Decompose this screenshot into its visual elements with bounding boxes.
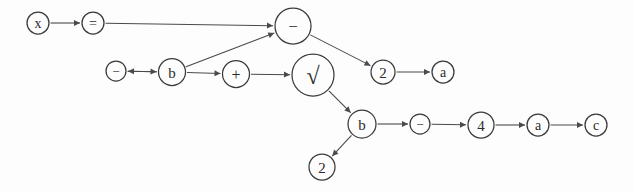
node-b-lower[interactable]: b [348, 110, 376, 138]
edge-two-upper-to-a-upper [397, 69, 431, 75]
edge-minus-lower-to-four [431, 122, 466, 128]
node-equals[interactable]: = [82, 12, 104, 34]
edge-equals-to-minus-main [105, 23, 273, 29]
edge-a-lower-to-c [551, 122, 584, 128]
node-a-upper-circle[interactable] [432, 61, 454, 83]
edge-four-to-a-lower [496, 122, 526, 128]
node-c-circle[interactable] [585, 114, 607, 136]
node-x-circle[interactable] [27, 12, 49, 34]
node-c[interactable]: c [585, 114, 607, 136]
node-four[interactable]: 4 [468, 112, 494, 138]
node-two-lower-circle[interactable] [309, 154, 335, 180]
graph-svg: x=−−b+√2ab−4ac2 [0, 0, 634, 192]
node-sqrt-circle[interactable] [292, 54, 334, 96]
diagram-canvas: x=−−b+√2ab−4ac2 [0, 0, 634, 192]
node-plus[interactable]: + [223, 61, 250, 88]
node-minus-lower-circle[interactable] [410, 114, 430, 134]
node-two-upper[interactable]: 2 [371, 60, 395, 84]
edge-plus-to-sqrt [251, 72, 290, 78]
node-minus-small-circle[interactable] [106, 61, 126, 81]
node-four-circle[interactable] [468, 112, 494, 138]
edge-b-lower-to-minus-lower [378, 121, 409, 127]
edge-sqrt-to-b-lower [329, 91, 351, 113]
node-a-lower-circle[interactable] [527, 114, 549, 136]
node-minus-main-circle[interactable] [275, 8, 311, 44]
node-b-upper-circle[interactable] [159, 59, 186, 86]
edge-x-to-equals [51, 20, 81, 26]
node-minus-main[interactable]: − [275, 8, 311, 44]
nodes-layer: x=−−b+√2ab−4ac2 [27, 8, 607, 180]
node-minus-lower[interactable]: − [410, 114, 430, 134]
node-equals-circle[interactable] [82, 12, 104, 34]
node-x[interactable]: x [27, 12, 49, 34]
node-sqrt[interactable]: √ [292, 54, 334, 96]
node-a-lower[interactable]: a [527, 114, 549, 136]
edge-b-lower-to-two-lower [332, 135, 351, 156]
node-two-lower[interactable]: 2 [309, 154, 335, 180]
node-b-lower-circle[interactable] [348, 110, 376, 138]
node-minus-small[interactable]: − [106, 61, 126, 81]
node-two-upper-circle[interactable] [371, 60, 395, 84]
node-plus-circle[interactable] [223, 61, 250, 88]
node-a-upper[interactable]: a [432, 61, 454, 83]
edge-b-upper-to-plus [187, 70, 221, 76]
node-b-upper[interactable]: b [159, 59, 186, 86]
